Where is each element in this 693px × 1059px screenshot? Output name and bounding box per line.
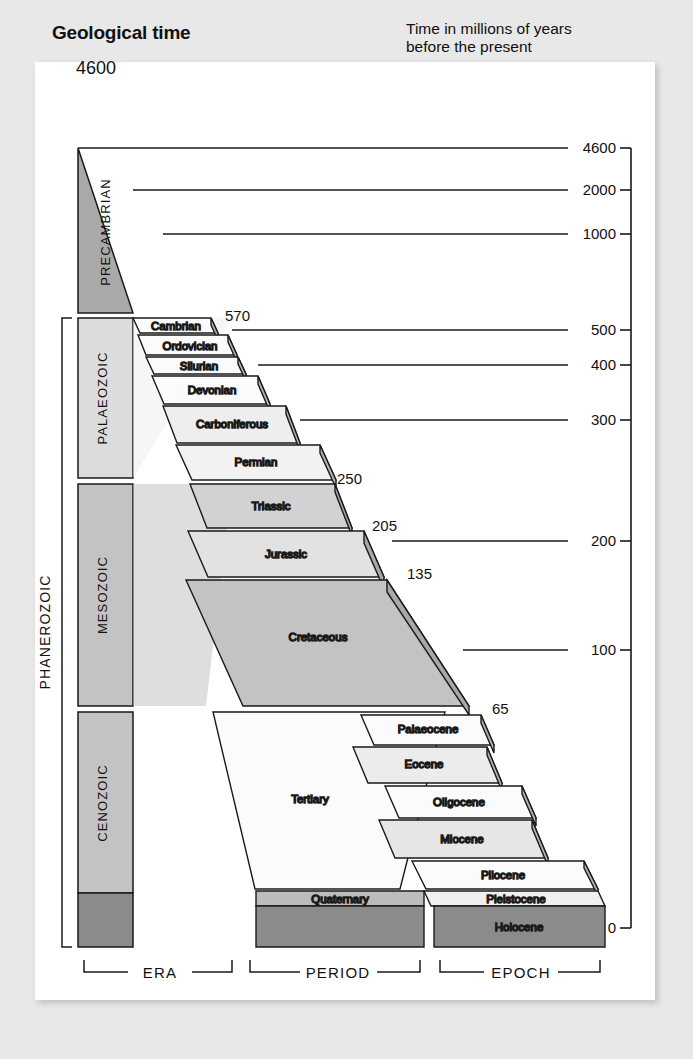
era-label-mesozoic: MESOZOIC <box>95 556 110 634</box>
epoch-label-miocene: Miocene <box>440 833 483 845</box>
era-label-cenozoic: CENOZOIC <box>95 764 110 841</box>
axis-tick-labels: 4600 2000 1000 500 400 300 200 100 0 <box>583 139 616 936</box>
period-label-quaternary: Quaternary <box>311 893 369 905</box>
period-label-tertiary: Tertiary <box>291 793 329 805</box>
tick-label-4600: 4600 <box>583 139 616 156</box>
boundary-label-570: 570 <box>225 307 250 324</box>
period-label-permian: Permian <box>235 456 278 468</box>
period-label-carboniferous: Carboniferous <box>196 418 268 430</box>
period-label-triassic: Triassic <box>251 500 290 512</box>
epoch-label-eocene: Eocene <box>404 758 443 770</box>
boundary-label-135: 135 <box>407 565 432 582</box>
era-label-palaeozoic: PALAEOZOIC <box>95 351 110 444</box>
diagram-page: Geological time Time in millions of year… <box>0 0 693 1059</box>
epoch-label-palaeocene: Palaeocene <box>398 723 459 735</box>
boundary-label-65: 65 <box>492 700 509 717</box>
tick-label-400: 400 <box>591 356 616 373</box>
period-label-silurian: Silurian <box>180 360 218 372</box>
era-label-precambrian: PRECAMBRIAN <box>98 178 113 285</box>
geological-time-figure: 4600 2000 1000 500 400 300 200 100 0 <box>0 0 693 1059</box>
period-label-devonian: Devonian <box>188 384 237 396</box>
period-slab-quaternary-base <box>256 906 424 947</box>
tick-label-0: 0 <box>608 919 616 936</box>
tick-label-200: 200 <box>591 532 616 549</box>
period-label-cambrian: Cambrian <box>151 320 201 332</box>
period-label-jurassic: Jurassic <box>265 548 307 560</box>
bracket-label-period: PERIOD <box>306 964 371 981</box>
epoch-label-pilocene: Pilocene <box>481 869 525 881</box>
phanerozoic-label: PHANEROZOIC <box>37 575 53 690</box>
bracket-label-epoch: EPOCH <box>491 964 550 981</box>
bracket-label-era: ERA <box>143 964 177 981</box>
boundary-label-205: 205 <box>372 517 397 534</box>
tick-label-300: 300 <box>591 411 616 428</box>
epoch-label-pleistocene: Pleistocene <box>486 893 545 905</box>
tick-label-2000: 2000 <box>583 181 616 198</box>
boundary-label-250: 250 <box>337 470 362 487</box>
tick-label-100: 100 <box>591 641 616 658</box>
epoch-label-oligocene: Oligocene <box>433 796 485 808</box>
era-base-bar <box>78 893 133 947</box>
period-label-cretaceous: Cretaceous <box>289 631 348 643</box>
epoch-label-holocene: Holocene <box>495 921 544 933</box>
right-axis-bracket <box>620 148 631 928</box>
tick-label-1000: 1000 <box>583 225 616 242</box>
period-label-ordovician: Ordovician <box>163 340 218 352</box>
tick-label-500: 500 <box>591 321 616 338</box>
phanerozoic-bracket <box>62 318 72 947</box>
